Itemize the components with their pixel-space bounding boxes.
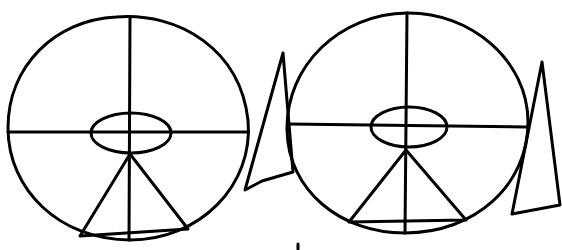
diagram-canvas [0, 0, 562, 250]
right-horizontal-line [288, 124, 526, 127]
diagram-svg [0, 0, 562, 250]
right-triangle [349, 150, 466, 222]
right-vertical-line [405, 13, 407, 233]
right-figure [287, 13, 560, 233]
left-vertical-line [129, 17, 130, 240]
left-triangle [80, 154, 188, 236]
left-figure [8, 17, 293, 240]
